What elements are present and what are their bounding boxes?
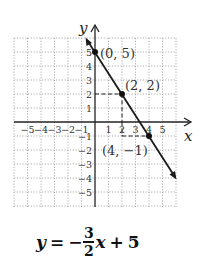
coordinate-graph: x y −5−4−3 −2−1 123 45 543 21 −1−2−3 −4−… [0, 0, 202, 222]
point-label-0-5: (0, 5) [100, 46, 135, 61]
svg-text:−2: −2 [61, 124, 75, 135]
svg-text:5: 5 [86, 47, 92, 58]
svg-text:1: 1 [86, 103, 92, 114]
equation-fraction: 3 2 [83, 226, 94, 258]
x-axis-label: x [184, 127, 193, 145]
equation-lhs: y [36, 232, 46, 252]
svg-text:1: 1 [105, 124, 111, 135]
svg-text:4: 4 [86, 61, 92, 72]
equation: y = − 3 2 x + 5 [36, 222, 140, 262]
equation-constant: 5 [128, 232, 140, 252]
point-label-2-2: (2, 2) [125, 78, 160, 93]
svg-text:−3: −3 [47, 124, 61, 135]
svg-text:−2: −2 [78, 145, 92, 156]
svg-text:2: 2 [86, 89, 92, 100]
equation-variable: x [95, 232, 105, 252]
point-4-neg1 [146, 133, 152, 139]
svg-text:−3: −3 [78, 159, 92, 170]
svg-text:−4: −4 [34, 124, 48, 135]
svg-text:5: 5 [159, 124, 165, 135]
y-axis-label: y [78, 19, 88, 37]
svg-text:−4: −4 [78, 173, 92, 184]
fraction-numerator: 3 [84, 226, 94, 240]
svg-text:−1: −1 [78, 131, 92, 142]
equation-sign: − [68, 232, 82, 252]
svg-text:3: 3 [132, 124, 138, 135]
svg-text:3: 3 [86, 75, 92, 86]
equation-plus: + [110, 232, 124, 252]
svg-text:−5: −5 [20, 124, 34, 135]
arrowhead-bottom [170, 171, 177, 180]
point-0-5 [92, 49, 98, 55]
svg-text:−5: −5 [78, 187, 92, 198]
point-label-4-neg1: (4, −1) [102, 143, 148, 158]
fraction-denominator: 2 [84, 244, 94, 258]
equation-equals: = [50, 232, 64, 252]
